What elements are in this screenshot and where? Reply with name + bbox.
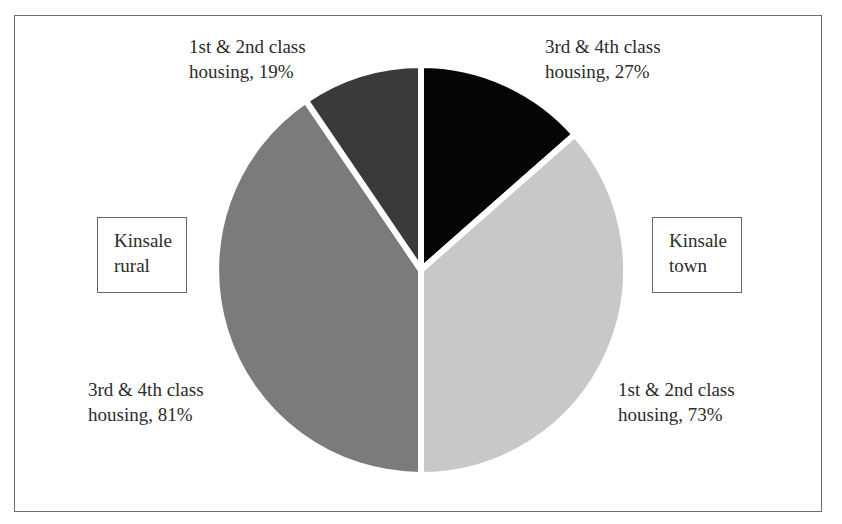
label-town-1st-2nd-class: 1st & 2nd class housing, 73% xyxy=(618,377,735,427)
label-line: Kinsale xyxy=(114,228,176,253)
label-line: town xyxy=(669,253,731,278)
label-line: 1st & 2nd class xyxy=(189,34,306,59)
group-label-kinsale-town: Kinsale town xyxy=(652,217,742,293)
label-line: rural xyxy=(114,253,176,278)
label-rural-1st-2nd-class: 1st & 2nd class housing, 19% xyxy=(189,34,306,84)
label-line: 3rd & 4th class xyxy=(88,377,204,402)
label-line: housing, 19% xyxy=(189,59,306,84)
label-line: housing, 27% xyxy=(545,59,661,84)
label-rural-3rd-4th-class: 3rd & 4th class housing, 81% xyxy=(88,377,204,427)
label-town-3rd-4th-class: 3rd & 4th class housing, 27% xyxy=(545,34,661,84)
label-line: 1st & 2nd class xyxy=(618,377,735,402)
label-line: 3rd & 4th class xyxy=(545,34,661,59)
label-line: housing, 81% xyxy=(88,402,204,427)
label-line: Kinsale xyxy=(669,228,731,253)
label-line: housing, 73% xyxy=(618,402,735,427)
group-label-kinsale-rural: Kinsale rural xyxy=(97,217,187,293)
